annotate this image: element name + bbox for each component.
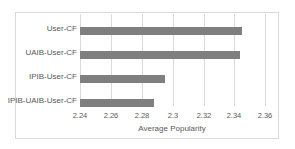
x-tick-label: 2.28 — [135, 111, 150, 120]
plot-area — [80, 14, 265, 106]
x-tick-label: 2.26 — [104, 111, 119, 120]
x-tick-label: 2.34 — [227, 111, 242, 120]
category-label: User-CF — [47, 24, 77, 33]
bar-uaib-user-cf — [80, 51, 240, 59]
x-tick-label: 2.36 — [258, 111, 273, 120]
category-label: UAIB-User-CF — [25, 48, 77, 57]
x-tick-label: 2.24 — [73, 111, 88, 120]
gridline — [265, 14, 266, 106]
category-label: IPIB-UAIB-User-CF — [8, 96, 77, 105]
bar-ipib-uaib-user-cf — [80, 99, 154, 107]
x-tick-label: 2.32 — [197, 111, 212, 120]
bar-user-cf — [80, 27, 242, 35]
bar-ipib-user-cf — [80, 75, 165, 83]
category-label: IPIB-User-CF — [29, 72, 77, 81]
x-tick-label: 2.3 — [168, 111, 178, 120]
x-axis-title: Average Popularity — [138, 124, 205, 133]
